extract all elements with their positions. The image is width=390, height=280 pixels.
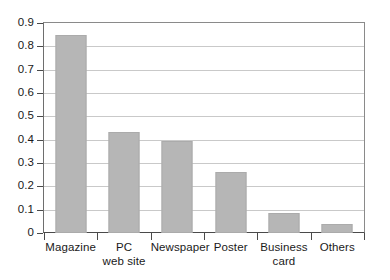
bar-slot (204, 23, 257, 233)
y-axis-tick (37, 233, 43, 234)
y-axis-tick-label: 0.8 (0, 40, 34, 52)
y-axis-tick-label: 0.3 (0, 157, 34, 169)
y-axis-tick (37, 46, 43, 47)
bars-group (44, 23, 364, 233)
y-axis-tick (37, 23, 43, 24)
x-axis-tick (44, 233, 45, 240)
x-axis-tick (311, 233, 312, 240)
y-axis-tick (37, 210, 43, 211)
x-axis-category-label-line: web site (97, 254, 150, 268)
x-axis-tick (97, 233, 98, 240)
bar[interactable] (162, 141, 193, 233)
x-axis-labels-group: MagazinePCweb siteNewspaperPosterBusines… (44, 240, 364, 280)
x-axis-category-label-line: card (257, 254, 310, 268)
bar-slot (257, 23, 310, 233)
y-axis-tick (37, 186, 43, 187)
bar[interactable] (268, 213, 299, 233)
bar[interactable] (215, 172, 246, 233)
y-axis-tick-label: 0 (0, 227, 34, 239)
y-axis-tick-label: 0.7 (0, 64, 34, 76)
y-axis-tick-label: 0.6 (0, 87, 34, 99)
x-axis-category-label: Magazine (44, 240, 97, 254)
y-axis-tick (37, 163, 43, 164)
x-axis-category-label-line: Business (260, 241, 307, 253)
x-axis-tick (364, 233, 365, 240)
x-axis-category-label: PCweb site (97, 240, 150, 268)
x-axis-category-label: Businesscard (257, 240, 310, 268)
x-axis-category-label-line: Others (320, 241, 355, 253)
x-axis-category-label-line: Poster (214, 241, 248, 253)
x-axis-category-label: Others (311, 240, 364, 254)
bar[interactable] (322, 224, 353, 233)
x-axis-category-label-line: Magazine (45, 241, 96, 253)
bar[interactable] (55, 35, 86, 233)
x-axis-tick (257, 233, 258, 240)
x-axis-category-label: Poster (204, 240, 257, 254)
y-axis-tick (37, 70, 43, 71)
y-axis-tick (37, 116, 43, 117)
bar-chart: 00.10.20.30.40.50.60.70.80.9 MagazinePCw… (0, 0, 390, 280)
y-axis-tick-label: 0.9 (0, 17, 34, 29)
y-axis-tick-label: 0.2 (0, 180, 34, 192)
y-axis-tick-label: 0.1 (0, 204, 34, 216)
x-axis-tick (151, 233, 152, 240)
y-axis-tick (37, 93, 43, 94)
x-axis-category-label: Newspaper (151, 240, 204, 254)
bar-slot (44, 23, 97, 233)
x-axis-category-label-line: PC (116, 241, 132, 253)
y-axis-tick-label: 0.4 (0, 134, 34, 146)
y-axis-tick-label: 0.5 (0, 110, 34, 122)
bar-slot (151, 23, 204, 233)
bar-slot (311, 23, 364, 233)
y-axis-tick (37, 140, 43, 141)
x-axis-category-label-line: Newspaper (151, 241, 210, 253)
bar-slot (97, 23, 150, 233)
x-axis-tick (204, 233, 205, 240)
bar[interactable] (108, 132, 139, 234)
